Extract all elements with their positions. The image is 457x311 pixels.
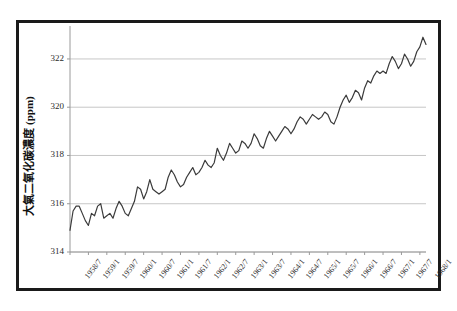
figure-container: 大氣二氧化碳濃度 (ppm) 314316318320322 1958/7195… [0,0,457,311]
data-series-line [70,37,426,230]
chart-svg-canvas [0,0,457,311]
chart-plot-area: 大氣二氧化碳濃度 (ppm) 314316318320322 1958/7195… [0,0,457,311]
